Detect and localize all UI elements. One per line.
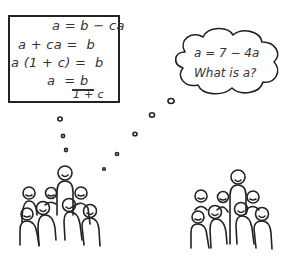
thought-dot <box>150 113 155 117</box>
thought-dot <box>168 99 174 104</box>
cloud-equation: a = 7 − 4a <box>194 46 259 60</box>
cartoon-scene: a = b − ca a + ca = b a (1 + c) = b a = … <box>0 0 288 262</box>
thought-dot <box>133 132 137 136</box>
left-crowd <box>20 166 100 246</box>
thought-dot <box>103 168 106 171</box>
cloud-question: What is a? <box>194 66 256 80</box>
thought-cloud <box>176 28 278 93</box>
thought-dot <box>58 117 62 121</box>
thought-dot <box>115 153 118 156</box>
thought-dot <box>61 134 64 137</box>
thought-dot <box>65 148 68 151</box>
drawing-layer <box>0 0 288 262</box>
right-crowd <box>191 170 272 249</box>
